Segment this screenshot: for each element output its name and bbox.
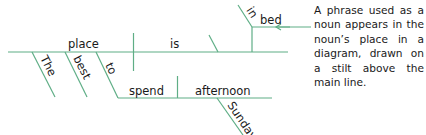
word-adjective: best: [70, 53, 94, 82]
word-verb: is: [170, 37, 179, 51]
complement-divider: [209, 35, 218, 52]
word-infinitive-verb: spend: [129, 84, 164, 98]
word-subject: place: [68, 37, 99, 51]
word-infinitive-object: afternoon: [195, 84, 251, 98]
word-article: The: [37, 52, 60, 78]
word-infinitive-marker: to: [102, 60, 120, 77]
annotation-text: A phrase used as a noun appears in the n…: [314, 3, 424, 89]
word-prepositional-object: bed: [260, 13, 282, 27]
